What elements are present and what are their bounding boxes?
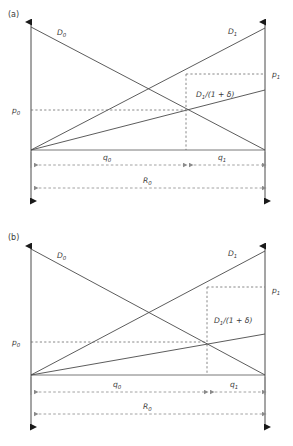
panel-a: (a) D0 D1 D1/(1 + δ) p0 p1 q0 q1 R0 (0, 0, 293, 223)
label-d1-discounted-b: D1/(1 + δ) (214, 316, 253, 326)
label-R0-a: R0 (143, 176, 152, 186)
label-q0-b: q0 (113, 380, 122, 390)
label-p1-b: p1 (271, 286, 280, 296)
label-d0-b: D0 (57, 251, 67, 261)
panel-b: (b) D0 D1 D1/(1 + δ) p0 p1 q0 q1 R0 (0, 223, 293, 446)
curve-d1-discounted-b (31, 334, 265, 375)
label-q1-b: q1 (230, 380, 238, 390)
label-p0-b: p0 (11, 338, 21, 348)
label-q1-a: q1 (218, 153, 226, 163)
curve-d1-discounted-a (31, 90, 265, 150)
label-d1-a: D1 (228, 27, 237, 37)
label-q0-a: q0 (103, 153, 112, 163)
figure-container: (a) D0 D1 D1/(1 + δ) p0 p1 q0 q1 R0 (0, 0, 293, 446)
label-p1-a: p1 (271, 70, 280, 80)
label-p0-a: p0 (11, 106, 21, 116)
label-R0-b: R0 (143, 402, 152, 412)
label-d1-discounted-a: D1/(1 + δ) (196, 90, 235, 100)
panel-b-tag: (b) (8, 233, 19, 242)
label-d1-b: D1 (228, 249, 237, 259)
label-d0-a: D0 (57, 28, 67, 38)
panel-a-tag: (a) (8, 10, 19, 19)
